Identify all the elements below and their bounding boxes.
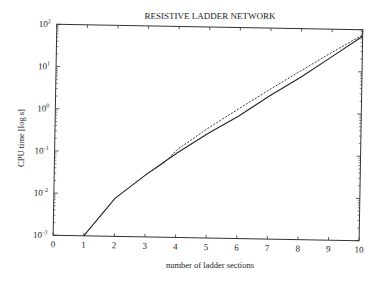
y-tick-label: 102	[39, 18, 51, 29]
y-tick-label: 101	[38, 60, 50, 71]
x-tick-label: 7	[265, 243, 270, 253]
plot-frame	[53, 24, 363, 240]
x-tick-label: 0	[51, 239, 56, 249]
chart: 012345678910 10-310-210-1100101102 RESIS…	[0, 0, 380, 284]
x-axis-ticks: 012345678910	[51, 24, 368, 254]
y-axis-ticks: 10-310-210-1100101102	[33, 18, 363, 246]
x-tick-label: 8	[295, 244, 300, 254]
y-tick-label: 100	[37, 102, 49, 113]
series-lines	[84, 30, 363, 240]
x-tick-label: 2	[112, 240, 117, 250]
plot-area: 012345678910 10-310-210-1100101102	[33, 18, 368, 255]
x-tick-label: 9	[326, 244, 331, 254]
chart-title: RESISTIVE LADDER NETWORK	[145, 11, 276, 21]
y-tick-label: 10-2	[34, 187, 48, 198]
x-tick-label: 5	[204, 242, 209, 252]
y-tick-label: 10-3	[33, 229, 47, 240]
x-tick-label: 4	[173, 241, 178, 251]
x-tick-label: 3	[142, 241, 147, 251]
x-axis-label: number of ladder sections	[166, 260, 254, 270]
series-dashed-line	[146, 31, 363, 178]
x-tick-label: 1	[81, 240, 86, 250]
x-tick-label: 6	[234, 242, 239, 252]
y-axis-label: CPU time [log s]	[16, 109, 26, 167]
series-solid-line	[84, 31, 363, 240]
y-tick-label: 10-1	[35, 145, 49, 156]
x-tick-label: 10	[354, 245, 364, 255]
